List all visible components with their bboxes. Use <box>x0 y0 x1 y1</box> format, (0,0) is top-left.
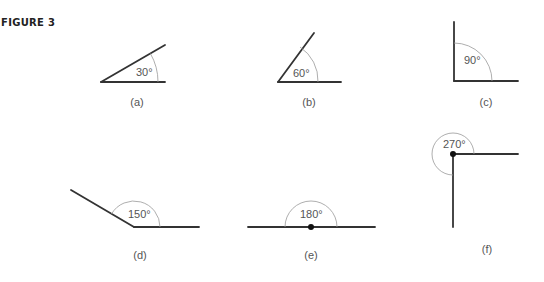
caption-f: (f) <box>482 243 492 255</box>
caption-c: (c) <box>480 96 493 108</box>
caption-e: (e) <box>304 249 317 261</box>
angle-label-e: 180° <box>300 208 323 220</box>
vertex-dot-e <box>308 224 314 230</box>
angle-label-a: 30° <box>136 66 153 78</box>
angle-label-f: 270° <box>443 138 466 150</box>
vertex-dot-f <box>450 151 456 157</box>
angle-label-b: 60° <box>293 67 310 79</box>
panel-c-90-degrees: 90° (c) <box>454 22 518 108</box>
caption-b: (b) <box>302 96 315 108</box>
panel-a-30-degrees: 30° (a) <box>101 45 165 108</box>
angle-label-c: 90° <box>464 54 481 66</box>
caption-a: (a) <box>130 96 143 108</box>
angles-diagram: 30° (a) 60° (b) 90° (c) 150° (d) 180° (e… <box>0 0 544 282</box>
panel-b-60-degrees: 60° (b) <box>278 33 341 108</box>
caption-d: (d) <box>133 249 146 261</box>
panel-e-180-degrees: 180° (e) <box>248 201 375 261</box>
panel-f-270-degrees: 270° (f) <box>432 133 518 255</box>
panel-d-150-degrees: 150° (d) <box>71 190 199 261</box>
angle-label-d: 150° <box>128 208 151 220</box>
